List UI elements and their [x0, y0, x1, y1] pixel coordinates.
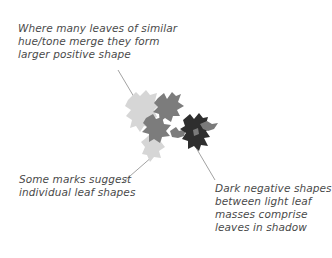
- annotation-line: masses comprise: [215, 208, 332, 221]
- annotation-line: leaves in shadow: [215, 221, 332, 234]
- annotation-line: hue/tone merge they form: [18, 35, 177, 48]
- annotation-positive-shape: Where many leaves of similar hue/tone me…: [18, 22, 177, 61]
- annotation-line: individual leaf shapes: [19, 186, 136, 199]
- annotation-line: between light leaf: [215, 195, 332, 208]
- annotation-line: Dark negative shapes: [215, 182, 332, 195]
- annotation-negative-shapes: Dark negative shapes between light leaf …: [215, 182, 332, 234]
- leader-line-right: [195, 146, 215, 180]
- annotation-line: Where many leaves of similar: [18, 22, 177, 35]
- annotation-line: larger positive shape: [18, 48, 177, 61]
- annotation-individual-leaf: Some marks suggest individual leaf shape…: [19, 173, 136, 199]
- annotation-line: Some marks suggest: [19, 173, 136, 186]
